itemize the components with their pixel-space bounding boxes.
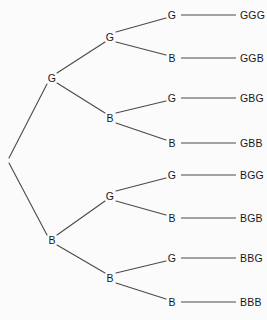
tree-node-n-gg: G bbox=[106, 32, 114, 43]
tree-node-n-gb: B bbox=[106, 113, 113, 124]
probability-tree-diagram: GBGBGBGBGBGBGB GGGGGBGBGGBBBGGBGBBBGBBB bbox=[0, 0, 267, 320]
edge-b-to-bb bbox=[57, 245, 105, 273]
tree-node-n-g: G bbox=[48, 73, 56, 84]
tree-node-n-bbg: G bbox=[168, 253, 176, 264]
edge-root-to-b bbox=[9, 163, 47, 235]
edge-bb-to-bbg bbox=[116, 261, 166, 273]
branch-edges bbox=[9, 18, 166, 299]
edge-bg-to-bgg bbox=[116, 178, 166, 191]
tree-node-n-gbb: B bbox=[168, 138, 175, 149]
outcome-label-bbb: BBB bbox=[240, 297, 262, 308]
outcome-label-ggb: GGB bbox=[240, 53, 264, 64]
tree-node-n-ggb: B bbox=[168, 53, 175, 64]
edge-bb-to-bbb bbox=[116, 283, 166, 299]
tree-node-n-bgg: G bbox=[168, 170, 176, 181]
outcome-label-gbb: GBB bbox=[240, 138, 263, 149]
edge-gg-to-ggb bbox=[116, 42, 166, 55]
edge-bg-to-bgb bbox=[116, 201, 166, 215]
tree-node-n-bbb: B bbox=[168, 297, 175, 308]
outcome-label-ggg: GGG bbox=[240, 10, 265, 21]
tree-node-n-bb: B bbox=[106, 273, 113, 284]
outcome-label-bgb: BGB bbox=[240, 213, 263, 224]
outcome-label-bbg: BBG bbox=[240, 253, 263, 264]
edge-gb-to-gbb bbox=[116, 123, 166, 140]
edge-b-to-bg bbox=[57, 201, 105, 235]
edge-root-to-g bbox=[9, 84, 47, 158]
tree-node-n-ggg: G bbox=[168, 10, 176, 21]
edge-g-to-gb bbox=[57, 83, 105, 113]
outcome-label-gbg: GBG bbox=[240, 93, 264, 104]
tree-node-n-bg: G bbox=[106, 191, 114, 202]
tree-node-n-bgb: B bbox=[168, 213, 175, 224]
edge-g-to-gg bbox=[57, 42, 105, 73]
tree-edges-canvas bbox=[0, 0, 267, 320]
tree-node-n-gbg: G bbox=[168, 93, 176, 104]
leaf-connector-rules bbox=[181, 15, 236, 302]
edge-gb-to-gbg bbox=[116, 101, 166, 113]
tree-node-n-b: B bbox=[48, 235, 55, 246]
outcome-label-bgg: BGG bbox=[240, 170, 264, 181]
edge-gg-to-ggg bbox=[116, 18, 166, 32]
